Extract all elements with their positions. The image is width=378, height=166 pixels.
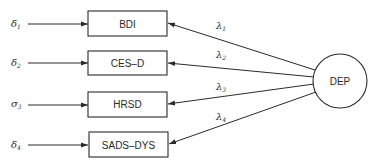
error-term-1: δ1 [11,18,88,30]
indicator-bdi: BDI [88,11,167,36]
svg-text:DEP: DEP [330,76,351,87]
svg-text:δ1: δ1 [11,18,21,30]
indicator-hrsd: HRSD [88,92,167,117]
loading-arrow-3 [168,84,314,104]
svg-text:σ3: σ3 [11,98,22,110]
sem-diagram: δ1 δ2 σ3 δ4 BDI CES–D HRSD SADS–DYS λ1 λ… [0,0,378,166]
error-term-2: δ2 [11,57,88,69]
loading-label-4: λ4 [215,111,226,123]
loading-arrow-1 [168,23,315,70]
loading-arrow-4 [169,92,316,144]
loading-label-3: λ3 [215,81,226,93]
indicator-sads-dys: SADS–DYS [89,132,168,157]
latent-dep: DEP [313,54,367,108]
loading-label-2: λ2 [215,49,226,61]
svg-text:SADS–DYS: SADS–DYS [102,140,156,151]
error-term-3: σ3 [11,98,88,110]
indicator-ces-d: CES–D [88,51,167,75]
loading-label-1: λ1 [215,20,226,32]
error-term-4: δ4 [11,139,88,151]
svg-text:δ2: δ2 [11,57,21,69]
svg-text:δ4: δ4 [11,139,21,151]
svg-text:HRSD: HRSD [113,99,141,110]
svg-text:BDI: BDI [119,19,136,30]
svg-text:CES–D: CES–D [111,58,144,69]
loading-arrow-2 [168,63,314,77]
